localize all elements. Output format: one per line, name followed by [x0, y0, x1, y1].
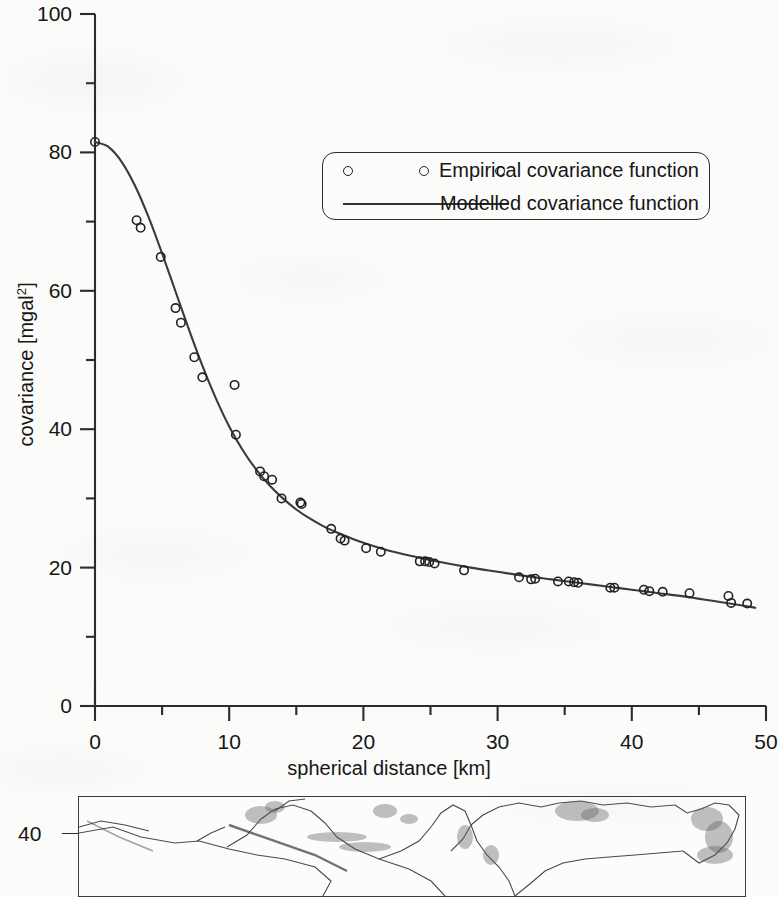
- map-latitude-label: 40: [18, 822, 41, 846]
- x-axis-tick-label: 40: [592, 731, 672, 752]
- map-latitude-tick: [62, 833, 78, 834]
- empirical-data-point: [362, 544, 370, 552]
- legend-marker-circle-icon: [419, 166, 429, 176]
- y-axis-title-text: covariance [mgal: [15, 295, 37, 446]
- coastline-path: [79, 827, 331, 896]
- chart-legend: Empirical covariance function Modelled c…: [322, 152, 710, 220]
- legend-label-empirical: Empirical covariance function: [439, 158, 699, 181]
- map-density-blob: [483, 845, 499, 865]
- coastline-path: [515, 851, 683, 896]
- y-axis-tick-label: 80: [0, 141, 72, 162]
- inset-map-figure: 40: [0, 790, 778, 895]
- map-density-blob: [373, 804, 397, 818]
- empirical-data-point: [171, 304, 179, 312]
- y-axis-tick-label: 20: [0, 557, 72, 578]
- y-axis-title-superscript: 2: [14, 288, 29, 295]
- plot-canvas: [0, 0, 778, 790]
- legend-item-modelled: Modelled covariance function: [323, 186, 709, 219]
- map-density-blob: [400, 814, 418, 824]
- legend-label-modelled: Modelled covariance function: [440, 191, 699, 214]
- empirical-data-point: [177, 318, 185, 326]
- map-density-blob: [339, 842, 391, 852]
- map-density-blob: [457, 825, 473, 849]
- map-density-blob: [265, 801, 285, 813]
- x-axis-tick-label: 20: [323, 731, 403, 752]
- x-axis-tick-label: 10: [189, 731, 269, 752]
- covariance-chart: 02040608010001020304050 covariance [mgal…: [0, 0, 778, 790]
- x-axis-tick-label: 50: [726, 731, 778, 752]
- coastline-path: [197, 827, 225, 841]
- map-density-blob: [581, 808, 609, 822]
- map-density-blob: [307, 832, 367, 842]
- coastline-canvas: [79, 797, 745, 896]
- y-axis-tick-label: 0: [0, 695, 72, 716]
- empirical-data-point: [685, 589, 693, 597]
- inset-map-frame: [78, 796, 746, 897]
- x-axis-tick-label: 30: [458, 731, 538, 752]
- legend-marker-circle-icon: [343, 166, 353, 176]
- map-density-blob: [697, 846, 733, 864]
- y-axis-title-bracket: ]: [15, 282, 37, 288]
- map-ridge-line: [87, 821, 153, 851]
- legend-item-empirical: Empirical covariance function: [323, 153, 709, 186]
- y-axis-tick-label: 100: [0, 3, 72, 24]
- map-ridge-line: [229, 825, 347, 871]
- empirical-data-point: [190, 353, 198, 361]
- x-axis-title: spherical distance [km]: [0, 757, 778, 780]
- y-axis-title: covariance [mgal2]: [14, 254, 39, 474]
- empirical-data-point: [268, 476, 276, 484]
- empirical-data-point: [198, 373, 206, 381]
- empirical-data-point: [230, 381, 238, 389]
- empirical-data-point: [136, 224, 144, 232]
- x-axis-tick-label: 0: [55, 731, 135, 752]
